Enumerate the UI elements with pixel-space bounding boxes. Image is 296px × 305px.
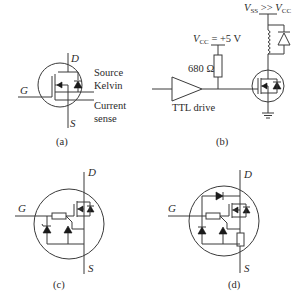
gate-label-a: G	[20, 84, 28, 96]
panel-c-protected-mosfet: D G S (c)	[15, 166, 104, 291]
flyback-diode	[278, 33, 290, 45]
panel-d-protected-mosfet-with-sense-resistor: D G S (d)	[168, 168, 259, 291]
sense-transistor-d	[219, 227, 227, 234]
source-label-c: S	[88, 262, 94, 274]
drain-label-d: D	[243, 168, 252, 180]
sense-transistor-c	[64, 226, 72, 233]
drain-label-c: D	[87, 166, 96, 178]
current-sense-label-line1: Current	[94, 100, 126, 111]
gate-resistor-c	[52, 213, 66, 219]
power-mosfet-figure: D G S Source Kelvin Current sense (a)	[0, 0, 296, 305]
panel-b-ttl-drive-circuit: VCC = +5 V VSS >> VCC 680 Ω TTL drive (b…	[152, 2, 291, 148]
panel-a-sensefet: D G S Source Kelvin Current sense (a)	[18, 52, 126, 148]
gate-label-c: G	[18, 202, 26, 214]
zener-diode-d	[198, 227, 206, 234]
ttl-buffer-symbol	[172, 77, 202, 101]
source-kelvin-label-line2: Kelvin	[94, 80, 123, 91]
ground-icon	[262, 113, 274, 118]
zener-diode-c	[43, 226, 51, 233]
source-kelvin-label-line1: Source	[94, 67, 123, 78]
gate-drain-clamp-diode	[216, 192, 223, 200]
ttl-drive-label: TTL drive	[172, 102, 215, 113]
mosfet-c-body	[34, 189, 104, 259]
gate-label-d: G	[168, 202, 176, 214]
inductor-load	[268, 30, 270, 54]
resistor-value-label: 680 Ω	[188, 63, 214, 74]
caption-c: (c)	[53, 279, 65, 291]
caption-a: (a)	[56, 136, 68, 148]
pullup-resistor	[214, 55, 222, 77]
vss-supply-label: VSS >> VCC	[244, 2, 291, 15]
drain-label-a: D	[70, 52, 79, 64]
source-label-d: S	[244, 262, 250, 274]
gate-resistor-d	[206, 213, 220, 219]
caption-d: (d)	[228, 279, 241, 291]
current-sense-label-line2: sense	[94, 113, 117, 124]
source-label-a: S	[70, 117, 76, 129]
caption-b: (b)	[216, 136, 229, 148]
vcc-supply-label: VCC = +5 V	[193, 33, 242, 46]
